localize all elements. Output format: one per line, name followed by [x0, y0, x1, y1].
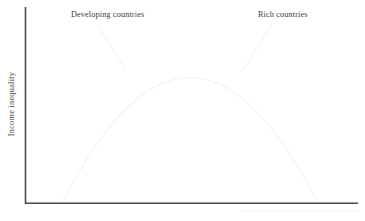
kuznets-curve-chart: Developing countries Rich countries Inco… [0, 0, 365, 221]
kuznets-curve-path [62, 78, 318, 204]
chart-plot-area [0, 0, 365, 221]
y-axis-label-text: Income inequality [8, 72, 16, 136]
annotation-label-rich: Rich countries [258, 11, 308, 19]
annotation-label-developing: Developing countries [71, 11, 144, 19]
leader-line-developing [97, 24, 125, 69]
leader-line-rich [243, 24, 272, 70]
y-axis-label: Income inequality [4, 54, 20, 154]
